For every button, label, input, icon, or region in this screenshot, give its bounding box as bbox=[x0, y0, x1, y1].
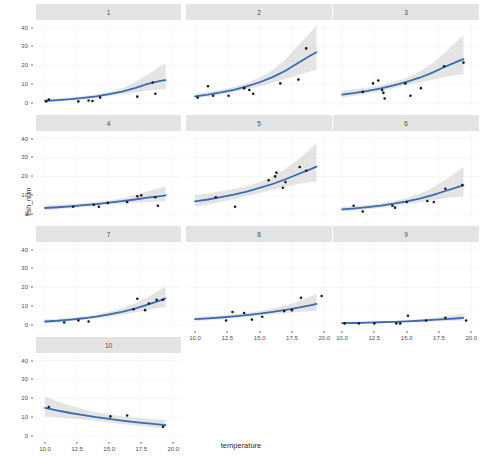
x-tick-mark bbox=[141, 442, 142, 444]
x-tick-mark bbox=[77, 442, 78, 444]
x-tick-mark bbox=[324, 331, 325, 333]
x-tick-mark bbox=[173, 442, 174, 444]
y-tick-label: 20 bbox=[21, 284, 28, 290]
panel-body-3 bbox=[333, 20, 479, 108]
x-tick-mark bbox=[374, 331, 375, 333]
facet-panel-7: 7 bbox=[36, 226, 181, 330]
y-tick-mark bbox=[31, 379, 33, 380]
facet-strip-label-8: 8 bbox=[186, 226, 332, 242]
x-tick-mark bbox=[195, 331, 196, 333]
y-tick-label: 10 bbox=[21, 192, 28, 198]
panel-body-8 bbox=[186, 242, 332, 330]
x-axis-8: 10.012.515.017.520.0 bbox=[186, 331, 332, 345]
y-tick-label: 40 bbox=[21, 25, 28, 31]
y-tick-label: 40 bbox=[21, 358, 28, 364]
facet-strip-label-10: 10 bbox=[36, 337, 181, 353]
x-tick-label: 12.5 bbox=[369, 335, 381, 341]
x-tick-label: 20.0 bbox=[318, 335, 330, 341]
y-tick-label: 10 bbox=[21, 81, 28, 87]
x-axis-10: 10.012.515.017.520.0 bbox=[36, 442, 181, 456]
y-axis-7: 010203040 bbox=[0, 242, 34, 330]
x-tick-label: 15.0 bbox=[103, 446, 115, 452]
y-tick-label: 40 bbox=[21, 247, 28, 253]
y-tick-mark bbox=[31, 436, 33, 437]
y-tick-label: 0 bbox=[25, 322, 28, 328]
x-tick-label: 10.0 bbox=[336, 335, 348, 341]
x-tick-label: 17.5 bbox=[286, 335, 298, 341]
y-tick-label: 0 bbox=[25, 433, 28, 439]
x-tick-label: 17.5 bbox=[135, 446, 147, 452]
facet-strip-label-2: 2 bbox=[186, 4, 332, 20]
x-tick-mark bbox=[471, 331, 472, 333]
y-tick-label: 0 bbox=[25, 211, 28, 217]
x-tick-mark bbox=[291, 331, 292, 333]
facet-panel-6: 6 bbox=[333, 115, 479, 219]
facet-strip-label-9: 9 bbox=[333, 226, 479, 242]
panel-body-4 bbox=[36, 131, 181, 219]
x-tick-label: 10.0 bbox=[39, 446, 51, 452]
y-tick-mark bbox=[31, 398, 33, 399]
y-tick-mark bbox=[31, 65, 33, 66]
y-tick-mark bbox=[31, 249, 33, 250]
y-tick-label: 0 bbox=[25, 100, 28, 106]
y-tick-label: 10 bbox=[21, 303, 28, 309]
x-tick-label: 12.5 bbox=[71, 446, 83, 452]
facet-strip-label-6: 6 bbox=[333, 115, 479, 131]
facet-panel-2: 2 bbox=[186, 4, 332, 108]
facet-strip-label-4: 4 bbox=[36, 115, 181, 131]
x-tick-label: 12.5 bbox=[222, 335, 234, 341]
x-tick-mark bbox=[44, 442, 45, 444]
facet-panel-4: 4 bbox=[36, 115, 181, 219]
x-tick-label: 17.5 bbox=[433, 335, 445, 341]
x-tick-label: 20.0 bbox=[465, 335, 477, 341]
panel-body-9 bbox=[333, 242, 479, 330]
facet-panel-1: 1 bbox=[36, 4, 181, 108]
y-tick-label: 40 bbox=[21, 136, 28, 142]
x-tick-mark bbox=[406, 331, 407, 333]
x-tick-mark bbox=[438, 331, 439, 333]
x-tick-label: 20.0 bbox=[167, 446, 179, 452]
y-axis-10: 010203040 bbox=[0, 353, 34, 441]
y-tick-mark bbox=[31, 103, 33, 104]
x-tick-mark bbox=[109, 442, 110, 444]
y-tick-mark bbox=[31, 157, 33, 158]
y-tick-mark bbox=[31, 417, 33, 418]
y-tick-label: 20 bbox=[21, 395, 28, 401]
y-tick-mark bbox=[31, 360, 33, 361]
y-axis-1: 010203040 bbox=[0, 20, 34, 108]
y-tick-mark bbox=[31, 214, 33, 215]
plot-root: fish_num temperature 1010203040234010203… bbox=[0, 0, 482, 458]
x-axis-9: 10.012.515.017.520.0 bbox=[333, 331, 479, 345]
y-tick-mark bbox=[31, 287, 33, 288]
x-tick-mark bbox=[259, 331, 260, 333]
panel-body-10 bbox=[36, 353, 181, 441]
facet-panel-10: 10 bbox=[36, 337, 181, 441]
y-tick-mark bbox=[31, 46, 33, 47]
y-tick-mark bbox=[31, 268, 33, 269]
y-tick-label: 30 bbox=[21, 43, 28, 49]
facet-strip-label-5: 5 bbox=[186, 115, 332, 131]
y-tick-label: 30 bbox=[21, 265, 28, 271]
panel-body-1 bbox=[36, 20, 181, 108]
x-tick-label: 15.0 bbox=[401, 335, 413, 341]
facet-strip-label-7: 7 bbox=[36, 226, 181, 242]
y-tick-label: 20 bbox=[21, 173, 28, 179]
panel-body-5 bbox=[186, 131, 332, 219]
x-tick-mark bbox=[342, 331, 343, 333]
facet-panel-5: 5 bbox=[186, 115, 332, 219]
y-tick-mark bbox=[31, 306, 33, 307]
panel-body-6 bbox=[333, 131, 479, 219]
y-tick-mark bbox=[31, 195, 33, 196]
panel-body-7 bbox=[36, 242, 181, 330]
panel-body-2 bbox=[186, 20, 332, 108]
x-tick-label: 10.0 bbox=[189, 335, 201, 341]
y-tick-label: 10 bbox=[21, 414, 28, 420]
facet-panel-9: 9 bbox=[333, 226, 479, 330]
y-tick-mark bbox=[31, 325, 33, 326]
x-tick-mark bbox=[227, 331, 228, 333]
y-tick-label: 20 bbox=[21, 62, 28, 68]
y-tick-mark bbox=[31, 84, 33, 85]
facet-panel-8: 8 bbox=[186, 226, 332, 330]
facet-strip-label-3: 3 bbox=[333, 4, 479, 20]
facet-strip-label-1: 1 bbox=[36, 4, 181, 20]
